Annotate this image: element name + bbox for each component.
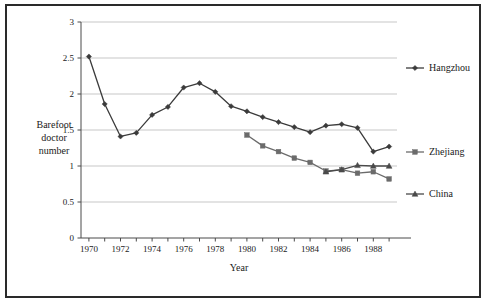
y-axis-tick-label: 0.5 <box>63 197 75 207</box>
x-axis-tick-label: 1974 <box>143 244 162 254</box>
data-point-marker-diamond <box>292 125 297 130</box>
x-axis-title: Year <box>230 262 249 273</box>
legend-item-china[interactable]: China <box>406 188 453 199</box>
y-axis-tick-label: 3 <box>70 17 75 27</box>
y-axis-tick-label: 2 <box>70 89 75 99</box>
x-axis-tick-label: 1980 <box>238 244 257 254</box>
x-axis-tick-labels: 1970197219741976197819801982198419861988 <box>80 244 383 254</box>
x-axis-tick-label: 1988 <box>364 244 383 254</box>
x-axis-tick-label: 1976 <box>175 244 194 254</box>
data-point-marker-diamond <box>276 119 281 124</box>
data-point-marker-diamond <box>118 134 123 139</box>
data-point-marker-square <box>371 169 376 174</box>
legend-label: Zhejiang <box>429 146 465 157</box>
data-point-marker-square <box>308 160 313 165</box>
data-point-marker-diamond <box>102 101 107 106</box>
y-axis-title-line: number <box>39 145 70 156</box>
y-axis-title-line: doctor <box>41 132 67 143</box>
y-axis-tick-label: 2.5 <box>63 53 75 63</box>
data-series-group <box>86 54 392 181</box>
gridlines-group <box>81 22 397 202</box>
data-point-marker-square <box>276 149 281 154</box>
data-point-marker-square <box>260 144 265 149</box>
data-point-marker-diamond <box>244 109 249 114</box>
y-axis-title-line: Barefoot <box>37 119 72 130</box>
x-axis-tick-label: 1982 <box>270 244 288 254</box>
line-chart: 00.511.522.53 19701972197419761978198019… <box>0 0 488 305</box>
data-point-marker-diamond <box>387 144 392 149</box>
legend-item-zhejiang[interactable]: Zhejiang <box>406 146 465 157</box>
legend-label: Hangzhou <box>429 62 470 73</box>
x-axis <box>81 238 411 242</box>
legend-label: China <box>429 188 453 199</box>
y-axis-tick-label: 1 <box>70 161 75 171</box>
x-axis-tick-label: 1970 <box>80 244 99 254</box>
series-line <box>247 135 389 179</box>
data-point-marker-diamond <box>412 65 417 70</box>
chart-legend: HangzhouZhejiangChina <box>406 62 470 199</box>
data-point-marker-diamond <box>339 122 344 127</box>
data-point-marker-square <box>387 177 392 182</box>
series-line <box>89 57 389 152</box>
data-point-marker-diamond <box>197 81 202 86</box>
data-point-marker-diamond <box>260 114 265 119</box>
data-point-marker-square <box>292 156 297 161</box>
x-axis-tick-label: 1978 <box>206 244 225 254</box>
series-hangzhou <box>86 54 391 154</box>
data-point-marker-square <box>355 171 360 176</box>
data-point-marker-diamond <box>323 123 328 128</box>
legend-item-hangzhou[interactable]: Hangzhou <box>406 62 470 73</box>
y-axis <box>78 22 82 238</box>
x-axis-tick-label: 1986 <box>333 244 352 254</box>
x-axis-tick-label: 1972 <box>112 244 130 254</box>
data-point-marker-square <box>245 133 250 138</box>
series-zhejiang <box>245 133 392 182</box>
y-axis-tick-labels: 00.511.522.53 <box>63 17 75 243</box>
data-point-marker-square <box>413 150 418 155</box>
y-axis-tick-label: 0 <box>70 233 75 243</box>
x-axis-tick-label: 1984 <box>301 244 320 254</box>
chart-page: 00.511.522.53 19701972197419761978198019… <box>0 0 488 305</box>
